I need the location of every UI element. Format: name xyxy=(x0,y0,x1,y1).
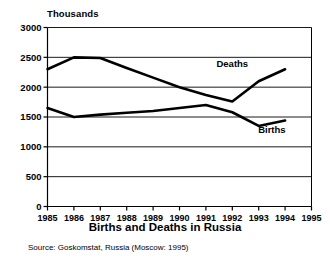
chart-source-note: Source: Goskomstat, Russia (Moscow: 1995… xyxy=(28,243,189,252)
y-tick-label: 500 xyxy=(26,171,42,182)
chart-title: Births and Deaths in Russia xyxy=(0,221,330,233)
series-line-deaths xyxy=(48,57,286,101)
y-tick-label: 1000 xyxy=(20,141,41,152)
chart-container: Thousands 050010001500200025003000 19851… xyxy=(0,0,330,267)
series-label-births: Births xyxy=(258,124,285,135)
y-tick-label: 3000 xyxy=(20,22,41,33)
y-tick-label: 2000 xyxy=(20,82,41,93)
y-axis-ticks: 050010001500200025003000 xyxy=(20,22,47,212)
y-tick-label: 0 xyxy=(36,201,41,212)
data-series xyxy=(48,57,286,126)
y-tick-label: 1500 xyxy=(20,111,41,122)
y-tick-label: 2500 xyxy=(20,52,41,63)
series-line-births xyxy=(48,105,286,126)
gridlines xyxy=(48,28,312,177)
series-label-deaths: Deaths xyxy=(216,58,248,69)
